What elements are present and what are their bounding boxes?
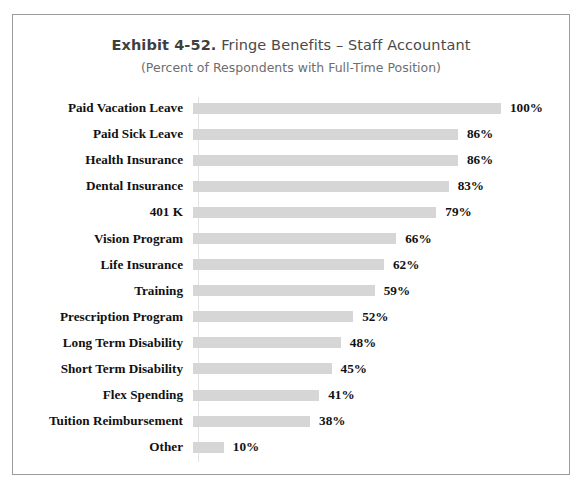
bar-value-label: 66% bbox=[396, 231, 431, 247]
bar-value-label: 83% bbox=[449, 178, 484, 194]
bar-value-label: 86% bbox=[458, 152, 493, 168]
bar-value-label: 86% bbox=[458, 126, 493, 142]
bar-track: 45% bbox=[193, 356, 569, 382]
bar-row: Training59% bbox=[13, 278, 569, 304]
bar-fill bbox=[193, 181, 449, 192]
bar-series: Paid Vacation Leave100%Paid Sick Leave86… bbox=[13, 95, 569, 460]
bar-row: Paid Sick Leave86% bbox=[13, 121, 569, 147]
bar-row: Life Insurance62% bbox=[13, 252, 569, 278]
bar-category-label: Long Term Disability bbox=[13, 335, 193, 351]
bar-fill bbox=[193, 207, 436, 218]
bar-track: 41% bbox=[193, 382, 569, 408]
bar-row: Vision Program66% bbox=[13, 225, 569, 251]
chart-title-exhibit: Exhibit 4-52. bbox=[111, 37, 216, 53]
bar-fill bbox=[193, 285, 375, 296]
bar-row: Dental Insurance83% bbox=[13, 173, 569, 199]
bar-fill bbox=[193, 416, 310, 427]
chart-subtitle: (Percent of Respondents with Full-Time P… bbox=[13, 60, 569, 75]
bar-value-label: 41% bbox=[319, 387, 354, 403]
bar-track: 79% bbox=[193, 199, 569, 225]
bar-value-label: 48% bbox=[341, 335, 376, 351]
bar-row: Tuition Reimbursement38% bbox=[13, 408, 569, 434]
bar-fill bbox=[193, 337, 341, 348]
bar-category-label: Flex Spending bbox=[13, 387, 193, 403]
bar-fill bbox=[193, 363, 332, 374]
bar-fill bbox=[193, 259, 384, 270]
bar-row: Health Insurance86% bbox=[13, 147, 569, 173]
bar-track: 83% bbox=[193, 173, 569, 199]
bar-row: Prescription Program52% bbox=[13, 304, 569, 330]
bar-value-label: 100% bbox=[501, 100, 543, 116]
chart-header: Exhibit 4-52. Fringe Benefits – Staff Ac… bbox=[13, 15, 569, 75]
bar-track: 48% bbox=[193, 330, 569, 356]
bar-category-label: Paid Vacation Leave bbox=[13, 100, 193, 116]
chart-container: Exhibit 4-52. Fringe Benefits – Staff Ac… bbox=[12, 14, 570, 475]
bar-track: 52% bbox=[193, 304, 569, 330]
bar-category-label: Tuition Reimbursement bbox=[13, 413, 193, 429]
bar-track: 10% bbox=[193, 434, 569, 460]
chart-title: Exhibit 4-52. Fringe Benefits – Staff Ac… bbox=[13, 37, 569, 53]
bar-category-label: Other bbox=[13, 439, 193, 455]
bar-category-label: Prescription Program bbox=[13, 309, 193, 325]
bar-row: Other10% bbox=[13, 434, 569, 460]
bar-row: Long Term Disability48% bbox=[13, 330, 569, 356]
bar-row: Short Term Disability45% bbox=[13, 356, 569, 382]
bar-fill bbox=[193, 233, 396, 244]
bar-value-label: 45% bbox=[332, 361, 367, 377]
bar-track: 38% bbox=[193, 408, 569, 434]
bar-category-label: Paid Sick Leave bbox=[13, 126, 193, 142]
bar-row: Paid Vacation Leave100% bbox=[13, 95, 569, 121]
bar-category-label: Life Insurance bbox=[13, 257, 193, 273]
bar-value-label: 79% bbox=[436, 204, 471, 220]
bar-category-label: Dental Insurance bbox=[13, 178, 193, 194]
bar-fill bbox=[193, 155, 458, 166]
bar-category-label: Health Insurance bbox=[13, 152, 193, 168]
bar-track: 86% bbox=[193, 121, 569, 147]
bar-value-label: 10% bbox=[224, 439, 259, 455]
bar-track: 100% bbox=[193, 95, 569, 121]
bar-value-label: 38% bbox=[310, 413, 345, 429]
bar-track: 86% bbox=[193, 147, 569, 173]
bar-fill bbox=[193, 311, 353, 322]
bar-value-label: 59% bbox=[375, 283, 410, 299]
chart-title-text: Fringe Benefits – Staff Accountant bbox=[221, 37, 470, 53]
bar-fill bbox=[193, 129, 458, 140]
bar-category-label: Short Term Disability bbox=[13, 361, 193, 377]
bar-row: Flex Spending41% bbox=[13, 382, 569, 408]
bar-value-label: 62% bbox=[384, 257, 419, 273]
bar-track: 59% bbox=[193, 278, 569, 304]
bar-value-label: 52% bbox=[353, 309, 388, 325]
bar-track: 62% bbox=[193, 252, 569, 278]
bar-track: 66% bbox=[193, 225, 569, 251]
bar-fill bbox=[193, 442, 224, 453]
plot-area: Paid Vacation Leave100%Paid Sick Leave86… bbox=[13, 95, 569, 474]
bar-category-label: 401 K bbox=[13, 204, 193, 220]
bar-category-label: Vision Program bbox=[13, 231, 193, 247]
bar-fill bbox=[193, 390, 319, 401]
bar-fill bbox=[193, 103, 501, 114]
bar-row: 401 K79% bbox=[13, 199, 569, 225]
bar-category-label: Training bbox=[13, 283, 193, 299]
